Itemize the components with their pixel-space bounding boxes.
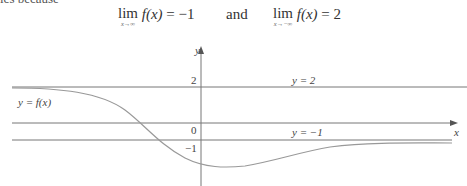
x-axis-label: x: [453, 126, 459, 138]
function-curve: [12, 88, 452, 167]
function-graph: y x 2 0 −1 y = 2 y = −1 y = f(x): [0, 0, 467, 186]
asymptote-label-yneg1: y = −1: [291, 126, 323, 138]
tick-label-2: 2: [191, 74, 197, 86]
tick-label-neg1: −1: [185, 142, 197, 154]
y-axis-label: y: [194, 44, 200, 56]
tick-label-0: 0: [191, 124, 197, 136]
curve-label: y = f(x): [17, 96, 51, 109]
asymptote-label-y2: y = 2: [291, 74, 316, 86]
